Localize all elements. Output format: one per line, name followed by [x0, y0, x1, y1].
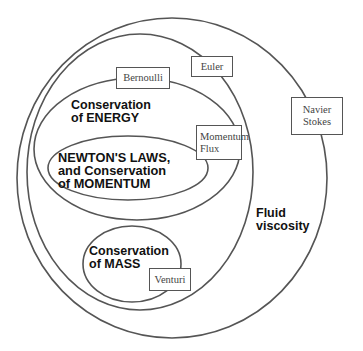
energy-label: Conservation of ENERGY	[71, 99, 151, 125]
navier-stokes-box: Navier Stokes	[291, 97, 343, 135]
newton-label: NEWTON'S LAWS, and Conservation of MOMEN…	[58, 151, 170, 190]
navier-stokes-box-line1: Navier	[303, 104, 332, 116]
venturi-box: Venturi	[149, 268, 191, 291]
navier-stokes-box-line2: Stokes	[303, 116, 331, 128]
momentum-flux-box-line2: Flux	[200, 143, 219, 155]
momentum-flux-box: Momentum Flux	[196, 125, 242, 160]
euler-box-label: Euler	[201, 61, 224, 73]
bernoulli-box: Bernoulli	[116, 67, 170, 89]
viscosity-label-line2: viscosity	[256, 220, 310, 233]
energy-label-line2: of ENERGY	[71, 112, 151, 125]
bernoulli-box-label: Bernoulli	[123, 72, 163, 84]
viscosity-label: Fluid viscosity	[256, 207, 310, 233]
euler-box: Euler	[191, 56, 233, 77]
momentum-flux-box-line1: Momentum	[200, 131, 249, 143]
newton-label-line3: of MOMENTUM	[58, 177, 170, 190]
nested-sets-diagram	[0, 0, 363, 351]
venturi-box-label: Venturi	[155, 274, 186, 286]
